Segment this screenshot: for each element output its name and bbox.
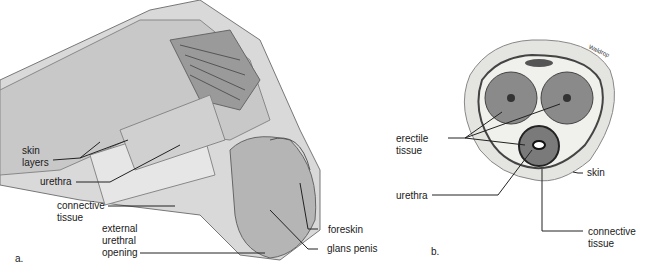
label-foreskin: foreskin bbox=[328, 224, 363, 236]
panel-b-illustration bbox=[432, 40, 615, 231]
label-skin-layers: skin layers bbox=[22, 145, 49, 169]
label-urethra-a: urethra bbox=[40, 176, 72, 188]
panel-b-letter: b. bbox=[431, 246, 439, 258]
label-urethra-b: urethra bbox=[396, 190, 428, 202]
label-connective-tissue-b: connective tissue bbox=[588, 226, 636, 250]
panel-a-illustration bbox=[0, 0, 320, 260]
label-glans-penis: glans penis bbox=[327, 243, 378, 255]
panel-a-letter: a. bbox=[15, 253, 23, 265]
label-erectile-tissue: erectile tissue bbox=[396, 133, 428, 157]
label-external-urethral-opening: external urethral opening bbox=[102, 223, 138, 259]
label-connective-tissue-a: connective tissue bbox=[57, 200, 105, 224]
illustration bbox=[0, 0, 654, 273]
label-skin: skin bbox=[587, 167, 605, 179]
